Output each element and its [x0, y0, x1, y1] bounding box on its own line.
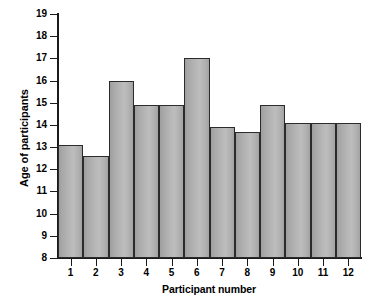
- bar-participant-8: [235, 132, 260, 258]
- x-tick-label-1: 1: [59, 267, 83, 278]
- bar-chart: Age of participants 89101112131415161718…: [0, 0, 369, 304]
- x-tick-label-7: 7: [210, 267, 234, 278]
- bar-participant-2: [83, 156, 108, 258]
- y-tick-16: [50, 81, 57, 82]
- y-tick-label-9: 9: [7, 231, 47, 241]
- x-tick-4: [146, 259, 147, 266]
- x-tick-8: [247, 259, 248, 266]
- y-tick-label-17: 17: [7, 53, 47, 63]
- x-axis-title: Participant number: [57, 283, 361, 295]
- y-tick-10: [50, 214, 57, 215]
- x-tick-10: [298, 259, 299, 266]
- y-tick-18: [50, 36, 57, 37]
- y-tick-13: [50, 147, 57, 148]
- y-tick-11: [50, 191, 57, 192]
- x-tick-label-8: 8: [235, 267, 259, 278]
- x-tick-label-11: 11: [311, 267, 335, 278]
- x-tick-label-9: 9: [261, 267, 285, 278]
- bar-participant-10: [285, 123, 310, 258]
- x-tick-1: [71, 259, 72, 266]
- y-tick-8: [50, 258, 57, 259]
- y-tick-12: [50, 169, 57, 170]
- y-tick-15: [50, 103, 57, 104]
- bar-participant-7: [210, 127, 235, 258]
- x-tick-label-2: 2: [84, 267, 108, 278]
- x-tick-label-6: 6: [185, 267, 209, 278]
- y-tick-14: [50, 125, 57, 126]
- bar-participant-6: [184, 58, 209, 258]
- y-tick-label-12: 12: [7, 164, 47, 174]
- y-tick-9: [50, 236, 57, 237]
- bar-participant-12: [336, 123, 361, 258]
- x-tick-6: [197, 259, 198, 266]
- x-tick-label-3: 3: [109, 267, 133, 278]
- bar-participant-4: [134, 105, 159, 258]
- bar-participant-1: [58, 145, 83, 258]
- y-tick-label-15: 15: [7, 98, 47, 108]
- y-tick-label-10: 10: [7, 209, 47, 219]
- bar-participant-11: [311, 123, 336, 258]
- x-tick-9: [273, 259, 274, 266]
- x-tick-label-5: 5: [160, 267, 184, 278]
- x-tick-label-10: 10: [286, 267, 310, 278]
- x-tick-12: [348, 259, 349, 266]
- x-tick-7: [222, 259, 223, 266]
- y-tick-17: [50, 58, 57, 59]
- x-tick-5: [172, 259, 173, 266]
- y-tick-label-13: 13: [7, 142, 47, 152]
- x-tick-label-12: 12: [336, 267, 360, 278]
- y-tick-19: [50, 14, 57, 15]
- bar-participant-9: [260, 105, 285, 258]
- bar-participant-5: [159, 105, 184, 258]
- x-tick-3: [121, 259, 122, 266]
- y-tick-label-18: 18: [7, 31, 47, 41]
- y-tick-label-8: 8: [7, 253, 47, 263]
- y-tick-label-11: 11: [7, 186, 47, 196]
- y-tick-label-16: 16: [7, 76, 47, 86]
- y-tick-label-14: 14: [7, 120, 47, 130]
- bar-participant-3: [109, 81, 134, 258]
- x-tick-2: [96, 259, 97, 266]
- x-tick-label-4: 4: [134, 267, 158, 278]
- x-tick-11: [323, 259, 324, 266]
- y-tick-label-19: 19: [7, 9, 47, 19]
